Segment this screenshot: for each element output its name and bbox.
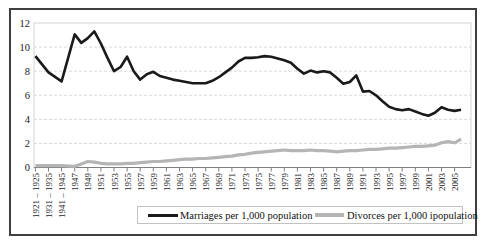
x-axis-label: 1921 – 1925 <box>31 173 41 219</box>
y-axis-label: 10 <box>20 42 31 53</box>
x-axis-label: 1991 <box>358 173 368 191</box>
x-axis-label: 1983 <box>306 173 316 192</box>
chart-figure: 1921 – 19251931 – 19351941 – 19451947194… <box>0 0 484 243</box>
x-axis-label: 1969 <box>214 173 224 192</box>
x-axis-label: 1953 <box>110 173 120 192</box>
x-axis-label: 1955 <box>123 173 133 192</box>
x-axis-label: 1979 <box>280 173 290 192</box>
x-axis-label: 1989 <box>345 173 355 192</box>
x-axis-label: 1961 <box>162 173 172 191</box>
x-axis-label: 2001 <box>424 173 434 191</box>
x-axis-label: 1981 <box>293 173 303 191</box>
x-axis-label: 1967 <box>201 173 211 192</box>
x-axis-label: 1949 <box>83 173 93 192</box>
legend: Marriages per 1,000 population Divorces … <box>137 206 463 224</box>
y-axis-label: 2 <box>25 138 30 149</box>
x-axis-label: 1931 – 1935 <box>44 173 54 219</box>
x-axis-label: 2005 <box>450 173 460 192</box>
x-axis-label: 1951 <box>96 173 106 191</box>
x-axis-label: 1965 <box>188 173 198 192</box>
x-axis-label: 1957 <box>136 173 146 192</box>
divorces-legend-marker <box>315 213 344 217</box>
x-axis-label: 1999 <box>411 173 421 192</box>
x-axis-label: 1973 <box>241 173 251 192</box>
divorces-legend-label: Divorces per 1,000 ipopulation <box>347 208 478 223</box>
x-axis-label: 1947 <box>70 173 80 192</box>
y-axis-label: 6 <box>25 90 30 101</box>
x-axis-label: 1977 <box>267 173 277 192</box>
x-axis-label: 1975 <box>254 173 264 192</box>
y-axis-label: 0 <box>25 162 30 173</box>
x-axis-label: 1971 <box>227 173 237 191</box>
x-axis-label: 1941 – 1945 <box>57 173 67 219</box>
y-axis-label: 8 <box>25 66 30 77</box>
x-axis-label: 1995 <box>385 173 395 192</box>
x-axis-label: 1963 <box>175 173 185 192</box>
x-axis-label: 1985 <box>319 173 329 192</box>
x-axis-label: 1993 <box>372 173 382 192</box>
x-axis-label: 1997 <box>398 173 408 192</box>
marriages-legend-label: Marriages per 1,000 population <box>180 208 312 223</box>
x-axis-label: 2003 <box>437 173 447 192</box>
x-axis-label: 1987 <box>332 173 342 192</box>
x-axis-label: 1959 <box>149 173 159 192</box>
y-axis-label: 4 <box>25 114 31 125</box>
marriages-legend-marker <box>148 214 178 217</box>
y-axis-label: 12 <box>20 18 31 29</box>
